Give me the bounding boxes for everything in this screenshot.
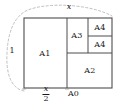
- point-label-a0: A0: [68, 89, 79, 98]
- dimension-label-x-over-2: x 2: [42, 85, 49, 103]
- region-label-a1: A1: [39, 49, 50, 58]
- geometry-figure: A1 A2 A3 A4 A4 x 1 x 2 A0: [0, 0, 120, 110]
- fraction-numerator: x: [42, 85, 49, 93]
- region-label-a4-lower: A4: [94, 40, 105, 49]
- dimension-label-x: x: [67, 2, 72, 11]
- region-label-a3: A3: [71, 31, 82, 40]
- fraction-denominator: 2: [42, 95, 49, 103]
- region-label-a2: A2: [84, 66, 95, 75]
- region-label-a4-upper: A4: [94, 23, 105, 32]
- figure-canvas: [0, 0, 120, 110]
- dimension-label-one: 1: [9, 46, 14, 55]
